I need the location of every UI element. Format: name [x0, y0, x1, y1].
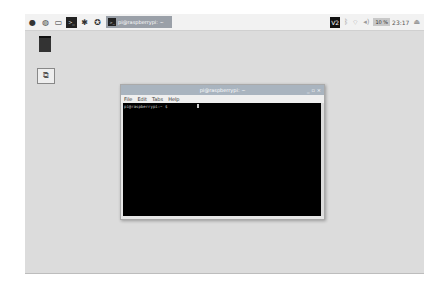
desktop: ● ◍ ▭ >_ ✱ ✪ >_ pi@raspberrypi: ~ V2 ᛒ ⌔…: [25, 14, 424, 274]
menu-bar: File Edit Tabs Help: [121, 95, 324, 103]
cpu-monitor: 10 %: [373, 18, 390, 26]
close-icon[interactable]: ×: [317, 87, 321, 93]
minimize-icon[interactable]: _: [307, 87, 310, 93]
vnc-icon[interactable]: V2: [330, 17, 340, 28]
task-label: pi@raspberrypi: ~: [118, 19, 164, 25]
terminal-window: pi@raspberrypi: ~ _ ▫ × File Edit Tabs H…: [120, 84, 325, 220]
terminal-icon: >_: [108, 18, 116, 26]
clock[interactable]: 23:17: [392, 19, 409, 26]
desktop-folder-icon[interactable]: ⧉: [37, 68, 55, 84]
terminal-icon[interactable]: >_: [66, 17, 77, 28]
top-panel: ● ◍ ▭ >_ ✱ ✪ >_ pi@raspberrypi: ~ V2 ᛒ ⌔…: [25, 14, 424, 31]
wolfram-icon[interactable]: ✪: [92, 17, 103, 28]
menu-file[interactable]: File: [124, 96, 132, 102]
cursor: [197, 104, 199, 108]
menu-edit[interactable]: Edit: [137, 96, 147, 102]
prompt: pi@raspberrypi:~ $: [124, 104, 167, 109]
taskbar-terminal-button[interactable]: >_ pi@raspberrypi: ~: [106, 16, 172, 28]
wifi-icon[interactable]: ⌔: [352, 18, 359, 27]
terminal-console[interactable]: pi@raspberrypi:~ $: [123, 103, 321, 216]
volume-icon[interactable]: ◂): [363, 18, 369, 26]
scrollbar[interactable]: [321, 103, 324, 216]
trash-icon[interactable]: [39, 36, 51, 52]
bluetooth-icon[interactable]: ᛒ: [344, 18, 348, 26]
menu-tabs[interactable]: Tabs: [152, 96, 163, 102]
title-bar[interactable]: pi@raspberrypi: ~ _ ▫ ×: [121, 85, 324, 95]
window-title: pi@raspberrypi: ~: [200, 87, 246, 93]
system-tray: V2 ᛒ ⌔ ◂) 10 % 23:17 ⏏: [330, 16, 420, 28]
raspberry-menu-icon[interactable]: ●: [27, 17, 38, 28]
mathematica-icon[interactable]: ✱: [79, 17, 90, 28]
eject-icon[interactable]: ⏏: [413, 18, 420, 26]
file-manager-icon[interactable]: ▭: [53, 17, 64, 28]
browser-icon[interactable]: ◍: [40, 17, 51, 28]
maximize-icon[interactable]: ▫: [311, 87, 314, 93]
menu-help[interactable]: Help: [168, 96, 179, 102]
